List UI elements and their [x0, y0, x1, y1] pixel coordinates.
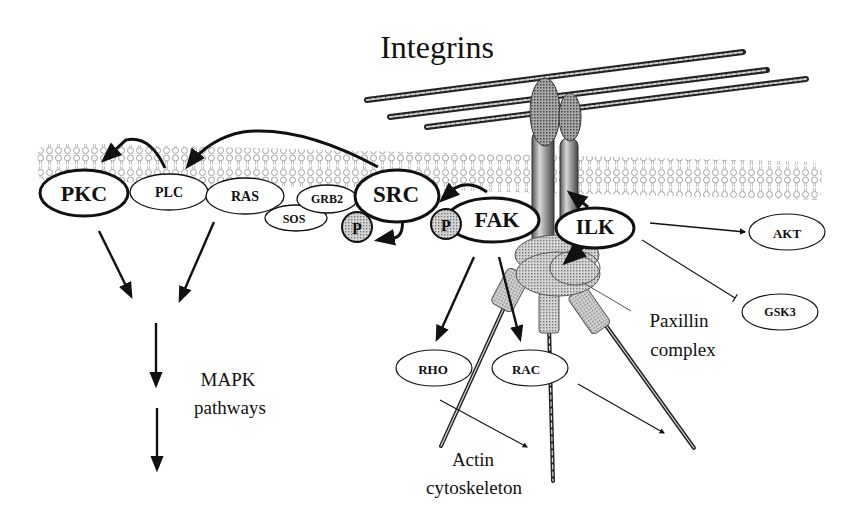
node-ras-label: RAS: [231, 189, 259, 204]
node-phospho-src-label: P: [352, 220, 362, 237]
node-pkc: PKC: [40, 170, 128, 216]
paxillin-label-line1: Paxillin: [649, 310, 709, 331]
node-ras: RAS: [206, 178, 284, 214]
node-ilk-label: ILK: [576, 215, 615, 239]
integrin-signaling-diagram: Integrins: [0, 0, 863, 528]
node-grb2-label: GRB2: [311, 192, 343, 206]
node-gsk3: GSK3: [742, 294, 818, 330]
node-src: SRC: [355, 170, 439, 222]
node-rac: RAC: [492, 350, 568, 386]
node-rho: RHO: [396, 350, 472, 386]
node-phospho-fak-label: P: [441, 217, 451, 234]
integrin-beta-head: [559, 93, 581, 141]
mapk-label-line1: MAPK: [201, 369, 256, 390]
node-ilk: ILK: [556, 208, 634, 248]
node-fak-label: FAK: [475, 207, 520, 232]
paxillin-complex: [490, 235, 611, 335]
node-phospho-src: P: [342, 212, 372, 242]
node-phospho-fak: P: [431, 209, 461, 239]
node-rho-label: RHO: [418, 362, 448, 377]
mapk-label-line2: pathways: [194, 397, 266, 418]
node-akt-label: AKT: [773, 226, 802, 241]
actin-label-line1: Actin: [452, 449, 495, 470]
diagram-title: Integrins: [380, 29, 494, 65]
node-pkc-label: PKC: [61, 181, 107, 206]
actin-label-line2: cytoskeleton: [426, 477, 523, 498]
node-sos-label: SOS: [283, 212, 306, 226]
paxillin-label-line2: complex: [650, 339, 716, 360]
integrin-alpha-head: [530, 78, 560, 146]
node-gsk3-label: GSK3: [764, 305, 795, 319]
node-grb2: GRB2: [297, 185, 357, 213]
node-plc-label: PLC: [155, 185, 183, 200]
node-rac-label: RAC: [512, 362, 540, 377]
node-src-label: SRC: [373, 182, 419, 207]
node-akt: AKT: [749, 214, 825, 250]
node-plc: PLC: [130, 174, 208, 210]
